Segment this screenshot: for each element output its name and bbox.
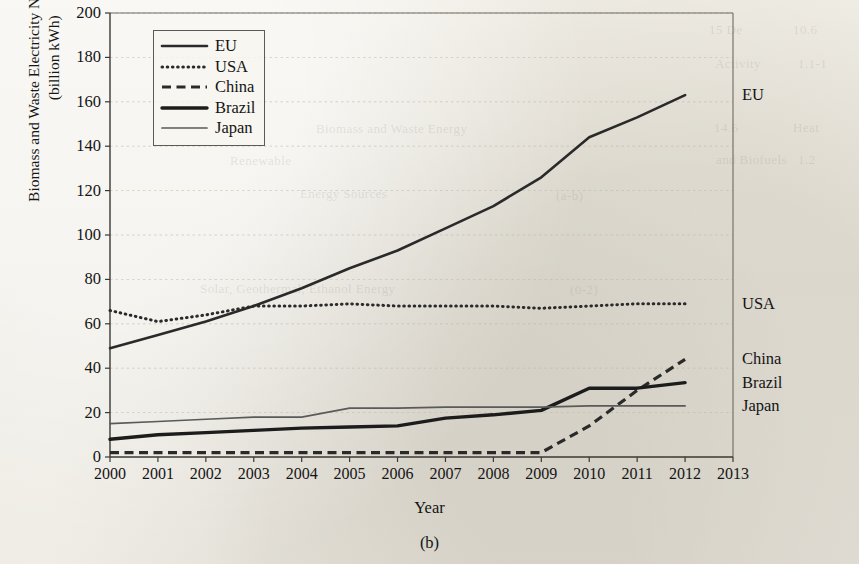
y-tick-label: 160 [55, 92, 101, 112]
figure-biomass-waste-electricity: Biomass and Waste Electricity Net Genera… [0, 0, 859, 564]
series-line-usa [110, 304, 685, 322]
y-tick-label: 60 [55, 314, 101, 334]
end-label-japan: Japan [742, 396, 780, 416]
y-tick-label: 100 [55, 225, 101, 245]
y-tick-label: 0 [55, 447, 101, 467]
y-tick-label: 200 [55, 3, 101, 23]
x-axis-title: Year [0, 498, 859, 518]
legend-swatch-japan [161, 121, 208, 135]
chart-legend: EUUSAChinaBrazilJapan [153, 30, 265, 146]
end-label-usa: USA [742, 294, 775, 314]
legend-label: Brazil [215, 100, 255, 117]
legend-item-eu: EU [161, 36, 255, 57]
y-tick-label: 20 [55, 403, 101, 423]
y-tick-label: 180 [55, 47, 101, 67]
figure-caption: (b) [0, 533, 859, 553]
legend-label: Japan [215, 120, 253, 137]
legend-label: China [215, 79, 254, 96]
end-label-eu: EU [742, 85, 764, 105]
y-tick-label: 40 [55, 358, 101, 378]
series-line-japan [110, 406, 685, 424]
series-line-brazil [110, 383, 685, 440]
end-label-brazil: Brazil [742, 373, 782, 393]
y-tick-label: 80 [55, 269, 101, 289]
x-tick-label: 2013 [705, 465, 761, 483]
legend-swatch-usa [161, 60, 208, 74]
legend-item-china: China [161, 77, 255, 98]
y-tick-label: 140 [55, 136, 101, 156]
legend-swatch-brazil [161, 101, 208, 115]
legend-label: EU [215, 38, 237, 55]
end-label-china: China [742, 349, 781, 369]
legend-label: USA [215, 59, 248, 76]
legend-item-usa: USA [161, 57, 255, 78]
plot-area: 020406080100120140160180200 200020012002… [0, 0, 859, 564]
legend-swatch-china [161, 80, 208, 94]
legend-swatch-eu [161, 39, 208, 53]
y-tick-label: 120 [55, 181, 101, 201]
legend-item-japan: Japan [161, 118, 255, 139]
legend-item-brazil: Brazil [161, 98, 255, 119]
